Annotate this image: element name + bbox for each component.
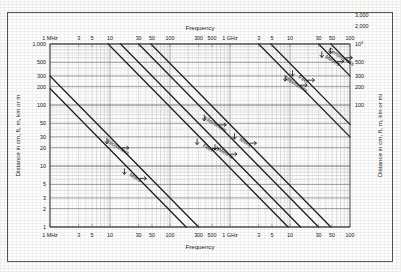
y-tick-label-right: 103 <box>355 40 363 47</box>
x-tick-label-top: 30 <box>136 35 142 41</box>
conversion-line <box>50 89 186 227</box>
x-tick-label-top: 100 <box>166 35 175 41</box>
x-tick-label-bottom: 3 <box>77 232 80 238</box>
x-tick-label-bottom: 30 <box>316 232 322 238</box>
y-tick-label-left: 500 <box>37 59 46 65</box>
y-tick-label-left: 100 <box>37 102 46 108</box>
grid-horizontal-minor <box>50 44 350 227</box>
plot-area-border <box>50 44 350 227</box>
x-tick-label-top: 10 <box>107 35 113 41</box>
x-tick-label-bottom: 100 <box>346 232 355 238</box>
x-tick-label-bottom: 100 <box>166 232 175 238</box>
y-tick-label-left: 20 <box>40 145 46 151</box>
x-tick-label-top: 5 <box>90 35 93 41</box>
figure-page: 1 MHz1 MHz335510103030505010010030030050… <box>0 0 401 272</box>
x-tick-label-top: 1 GHz <box>222 35 238 41</box>
x-tick-label-top: 30 <box>316 35 322 41</box>
x-tick-label-bottom: 5 <box>90 232 93 238</box>
x-tick-label-top: 3 <box>77 35 80 41</box>
x-tick-label-bottom: 1 MHz <box>42 232 58 238</box>
callout-arrow <box>232 133 236 139</box>
y-tick-label-right: 3,000 <box>355 13 369 18</box>
x-tick-label-bottom: 30 <box>136 232 142 238</box>
conversion-line-label: Miles <box>129 171 143 183</box>
y-tick-label-left: 30 <box>40 134 46 140</box>
x-tick-label-bottom: 10 <box>107 232 113 238</box>
x-tick-label-bottom: 1 GHz <box>222 232 238 238</box>
right-axis-title: Distance in cm, ft, m, km or mi <box>376 94 383 177</box>
y-tick-label-left: 1,000 <box>33 41 47 47</box>
conversion-line-label: Miles <box>239 136 253 148</box>
y-tick-label-left: 200 <box>37 84 46 90</box>
x-tick-label-top: 500 <box>207 35 216 41</box>
y-tick-label-left: 50 <box>40 120 46 126</box>
y-tick-label-right: 100 <box>355 102 364 108</box>
conversion-line-label: Kilometers <box>105 138 130 157</box>
callout-arrow <box>291 70 295 76</box>
x-tick-label-bottom: 10 <box>287 232 293 238</box>
nomogram-chart: 1 MHz1 MHz335510103030505010010030030050… <box>8 13 392 261</box>
y-tick-label-left: 3 <box>43 195 46 201</box>
y-tick-label-left: 2 <box>43 206 46 212</box>
top-axis-title: Frequency <box>185 24 215 31</box>
x-tick-label-top: 100 <box>346 35 355 41</box>
bottom-axis-title: Frequency <box>185 243 215 250</box>
callout-arrow <box>320 51 324 57</box>
y-tick-label-left: 300 <box>37 73 46 79</box>
conversion-line <box>139 44 319 227</box>
x-tick-label-top: 3 <box>257 35 260 41</box>
x-tick-label-bottom: 300 <box>194 232 203 238</box>
conversion-line-label: Feet <box>202 142 215 153</box>
y-tick-label-left: 10 <box>40 163 46 169</box>
x-tick-label-top: 50 <box>329 35 335 41</box>
x-tick-label-bottom: 3 <box>257 232 260 238</box>
x-tick-label-top: 50 <box>149 35 155 41</box>
conversion-line <box>108 44 288 227</box>
x-tick-label-bottom: 5 <box>270 232 273 238</box>
conversion-line <box>151 44 331 227</box>
x-tick-label-bottom: 50 <box>149 232 155 238</box>
x-tick-label-bottom: 50 <box>329 232 335 238</box>
y-tick-label-right: 2,000 <box>355 23 369 29</box>
conversion-line <box>121 44 301 227</box>
y-tick-label-right: 500 <box>355 59 364 65</box>
y-tick-label-left: 5 <box>43 181 46 187</box>
y-tick-label-left: 1 <box>43 224 46 230</box>
left-axis-title: Distance in cm, ft, m, km or m <box>14 95 21 177</box>
figure-frame: 1 MHz1 MHz335510103030505010010030030050… <box>7 12 393 262</box>
y-tick-label-right: 300 <box>355 73 364 79</box>
x-tick-label-bottom: 500 <box>207 232 216 238</box>
y-tick-label-right: 200 <box>355 84 364 90</box>
x-tick-label-top: 300 <box>194 35 203 41</box>
x-tick-label-top: 5 <box>270 35 273 41</box>
callout-arrow <box>122 168 126 174</box>
conversion-lines <box>50 44 350 227</box>
x-tick-label-top: 10 <box>287 35 293 41</box>
